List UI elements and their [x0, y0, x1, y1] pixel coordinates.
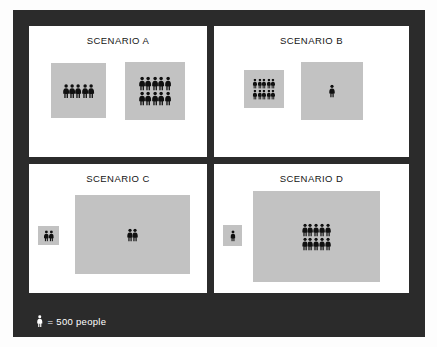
people-row [302, 223, 332, 236]
legend-label: = 500 people [48, 316, 107, 327]
people-row [253, 79, 276, 89]
people-row [139, 92, 171, 106]
scenario-panel-b: SCENARIO B [214, 26, 409, 157]
scenario-panel-d: SCENARIO D [214, 164, 409, 293]
scenario-c-left-people [43, 230, 53, 241]
scenario-d-right-region [253, 191, 380, 282]
people-row [139, 77, 171, 91]
panel-title-a: SCENARIO A [29, 35, 207, 46]
people-row [43, 230, 53, 241]
person-pictogram-icon [37, 315, 43, 327]
scenario-c-right-people [127, 228, 139, 241]
scenario-c-right-region [75, 195, 190, 274]
scenario-c-left-region [38, 226, 59, 245]
scenario-a-right-people [139, 77, 171, 106]
scenario-b-right-people [329, 85, 335, 98]
panel-title-b: SCENARIO B [214, 35, 409, 46]
scenario-d-left-people [230, 230, 235, 241]
scenario-b-left-region [244, 70, 284, 108]
scenario-a-right-region [125, 62, 185, 120]
scenario-a-left-people [62, 84, 94, 98]
panel-title-d: SCENARIO D [214, 173, 409, 184]
people-row [253, 90, 276, 100]
legend: = 500 people [37, 315, 106, 327]
scenario-b-right-region [301, 62, 363, 120]
people-row [329, 85, 335, 98]
scenario-a-left-region [51, 63, 106, 118]
figure-frame: SCENARIO A SCENARIO B SCENARIO C SCENARI… [13, 10, 425, 337]
people-row [302, 237, 332, 250]
people-row [62, 84, 94, 98]
people-row [230, 230, 235, 241]
scenario-b-left-people [253, 79, 276, 100]
scenario-d-left-region [223, 225, 242, 246]
scenario-panel-a: SCENARIO A [29, 26, 207, 157]
people-row [127, 228, 139, 241]
panel-title-c: SCENARIO C [29, 173, 207, 184]
scenario-panel-c: SCENARIO C [29, 164, 207, 293]
scenario-d-right-people [302, 223, 332, 250]
